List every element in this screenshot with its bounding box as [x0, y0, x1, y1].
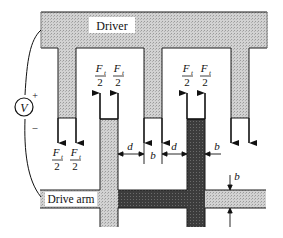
- svg-text:F: F: [95, 62, 103, 74]
- force-label: F t 2: [52, 146, 64, 172]
- svg-text:F: F: [52, 146, 60, 158]
- gap-label-d2: d: [171, 140, 177, 152]
- width-label-b1: b: [150, 149, 156, 161]
- width-label-b3: b: [234, 170, 240, 182]
- force-label: F t 2: [95, 62, 107, 88]
- svg-text:2: 2: [54, 160, 60, 172]
- drive-arm-comb: Drive arm: [40, 119, 266, 227]
- force-label: F t 2: [200, 62, 212, 88]
- driver-label: Driver: [96, 19, 127, 33]
- downward-force-arrows: [58, 118, 249, 143]
- svg-text:F: F: [182, 62, 190, 74]
- minus-terminal: –: [32, 122, 39, 133]
- force-label: F t 2: [182, 62, 194, 88]
- svg-text:2: 2: [184, 76, 190, 88]
- svg-text:2: 2: [202, 76, 208, 88]
- drive-arm-label: Drive arm: [48, 193, 95, 205]
- width-label-b2: b: [214, 140, 220, 152]
- voltage-source: V + –: [15, 30, 41, 197]
- svg-text:F: F: [70, 146, 78, 158]
- svg-text:2: 2: [72, 160, 78, 172]
- svg-text:2: 2: [97, 76, 103, 88]
- force-label: F t 2: [70, 146, 82, 172]
- plus-terminal: +: [32, 90, 38, 101]
- comb-drive-diagram: Driver Drive arm F: [0, 0, 283, 238]
- force-label: F t 2: [113, 62, 125, 88]
- svg-text:F: F: [113, 62, 121, 74]
- gap-label-d1: d: [127, 140, 133, 152]
- driver-comb: Driver: [41, 12, 267, 118]
- svg-text:F: F: [200, 62, 208, 74]
- svg-text:2: 2: [115, 76, 121, 88]
- dimension-callouts: [118, 143, 232, 227]
